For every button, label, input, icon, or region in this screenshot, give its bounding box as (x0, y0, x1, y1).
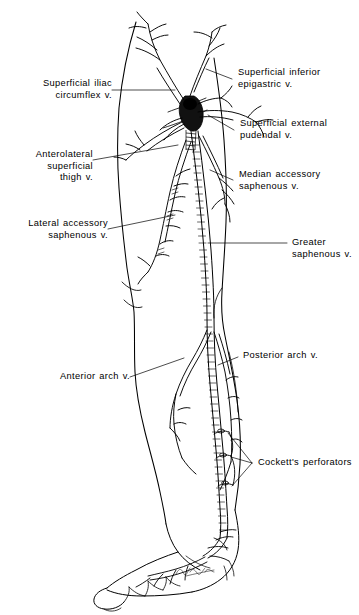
artist-signature (176, 568, 214, 576)
label-anterolateral-superficial-thigh: Anterolateral superficial thigh v. (4, 149, 93, 184)
label-lateral-accessory-saphenous: Lateral accessory saphenous v. (6, 218, 108, 241)
label-superficial-iliac-circumflex: Superficial iliac circumflex v. (8, 78, 112, 101)
label-anterior-arch: Anterior arch v. (30, 371, 130, 383)
label-posterior-arch: Posterior arch v. (243, 350, 357, 362)
anatomical-figure: Superficial iliac circumflex v. Anterola… (0, 0, 359, 615)
label-superficial-external-pudendal: Superficial external pudendal v. (240, 118, 359, 141)
label-median-accessory-saphenous: Median accessory saphenous v. (239, 169, 352, 192)
label-greater-saphenous: Greater saphenous v. (292, 237, 359, 260)
foot-outline (94, 510, 239, 611)
saphenous-valve-hatching (192, 138, 227, 530)
label-superficial-inferior-epigastric: Superficial inferior epigastric v. (238, 67, 356, 90)
label-cocketts-perforators: Cockett's perforators (258, 457, 359, 469)
arch-veins (170, 330, 242, 490)
